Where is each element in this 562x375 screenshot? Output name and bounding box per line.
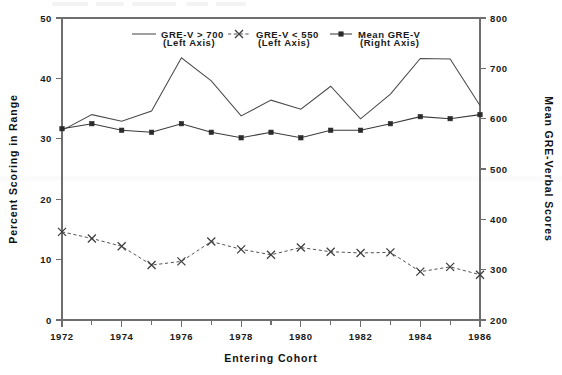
legend-sublabel-2: (Right Axis)	[360, 37, 420, 48]
data-point-2-9	[329, 128, 333, 132]
x-tick-label-1978: 1978	[229, 331, 253, 342]
y-tick-label-right-800: 800	[490, 13, 508, 24]
legend-sublabel-1: (Left Axis)	[258, 37, 310, 48]
x-tick-label-1976: 1976	[170, 331, 194, 342]
data-point-2-6	[239, 136, 243, 140]
x-tick-label-1986: 1986	[468, 331, 492, 342]
data-point-2-13	[448, 116, 452, 120]
x-tick-label-1982: 1982	[349, 331, 373, 342]
y-tick-label-left-0: 0	[46, 315, 52, 326]
y-tick-label-right-700: 700	[490, 63, 508, 74]
x-axis-title: Entering Cohort	[224, 352, 317, 364]
y-tick-label-right-600: 600	[490, 113, 508, 124]
x-tick-label-1974: 1974	[110, 331, 134, 342]
x-tick-label-1984: 1984	[409, 331, 433, 342]
data-point-2-0	[60, 127, 64, 131]
data-point-2-12	[418, 114, 422, 118]
chart-container: 0102030405020030040050060070080019721974…	[0, 0, 562, 375]
y-tick-label-right-200: 200	[490, 315, 508, 326]
data-point-2-3	[149, 130, 153, 134]
data-point-2-11	[388, 122, 392, 126]
y-tick-label-left-50: 50	[40, 13, 52, 24]
data-point-2-7	[269, 130, 273, 134]
data-point-2-5	[209, 130, 213, 134]
y-tick-label-right-300: 300	[490, 264, 508, 275]
legend-marker-square-2	[339, 32, 343, 36]
gre-verbal-trends-chart: 0102030405020030040050060070080019721974…	[0, 0, 562, 375]
y-tick-label-left-40: 40	[40, 73, 52, 84]
data-point-2-2	[120, 128, 124, 132]
data-point-2-10	[358, 128, 362, 132]
scan-band	[0, 176, 562, 181]
y-axis-title-left: Percent Scoring in Range	[7, 94, 19, 243]
data-point-2-1	[90, 122, 94, 126]
y-tick-label-left-10: 10	[40, 254, 52, 265]
y-tick-label-left-20: 20	[40, 194, 52, 205]
x-tick-label-1980: 1980	[289, 331, 313, 342]
data-point-2-14	[478, 112, 482, 116]
legend-sublabel-0: (Left Axis)	[163, 37, 215, 48]
y-tick-label-left-30: 30	[40, 133, 52, 144]
y-tick-label-right-500: 500	[490, 164, 508, 175]
scan-artifact	[52, 2, 246, 6]
y-tick-label-right-400: 400	[490, 214, 508, 225]
data-point-2-8	[299, 136, 303, 140]
x-tick-label-1972: 1972	[50, 331, 74, 342]
data-point-2-4	[179, 122, 183, 126]
y-axis-title-right: Mean GRE-Verbal Scores	[543, 96, 555, 241]
chart-background	[0, 0, 562, 375]
